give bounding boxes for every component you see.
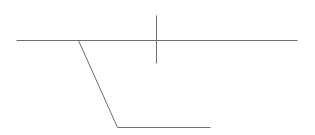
line-diagram [0,0,315,135]
diagram-background [0,0,315,135]
